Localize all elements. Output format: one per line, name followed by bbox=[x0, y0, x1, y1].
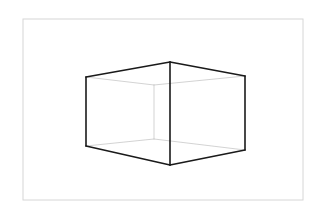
drawing-frame bbox=[23, 19, 303, 200]
box-perspective-drawing bbox=[0, 0, 320, 213]
